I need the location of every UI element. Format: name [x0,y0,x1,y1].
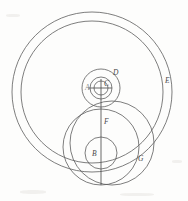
label-a: A [85,84,90,92]
circle-group [12,12,172,185]
paper-speck [20,190,46,194]
paper-speck [172,160,182,163]
label-g: G [138,155,143,163]
circle-e-inner [21,21,163,163]
circle-e-outer [12,12,172,172]
label-d: D [113,69,118,77]
label-b: B [92,150,97,158]
figure-container: A B C D E F G [0,0,188,201]
circles-diagram [0,0,188,201]
label-e: E [165,77,170,85]
label-c: C [104,80,109,88]
paper-speck [120,193,154,196]
label-f: F [104,118,109,126]
paper-speck [6,14,20,17]
